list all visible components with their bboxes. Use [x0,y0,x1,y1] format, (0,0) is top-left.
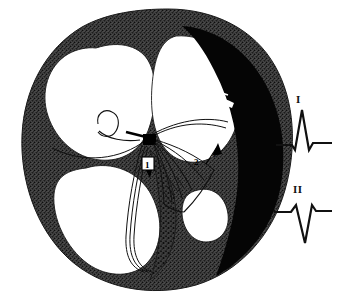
callout-2-label: 2 [194,157,199,167]
callout-3-label: 3 [212,151,216,159]
ecg-lead-I-label: I [296,93,301,105]
ecg-lead-II-label: II [293,183,303,195]
ecg-lead-II [274,205,332,243]
heart-diagram-svg [0,0,344,299]
callout-1-label: 1 [145,160,150,170]
heart-conduction-figure: I II 1 2 3 [0,0,344,299]
